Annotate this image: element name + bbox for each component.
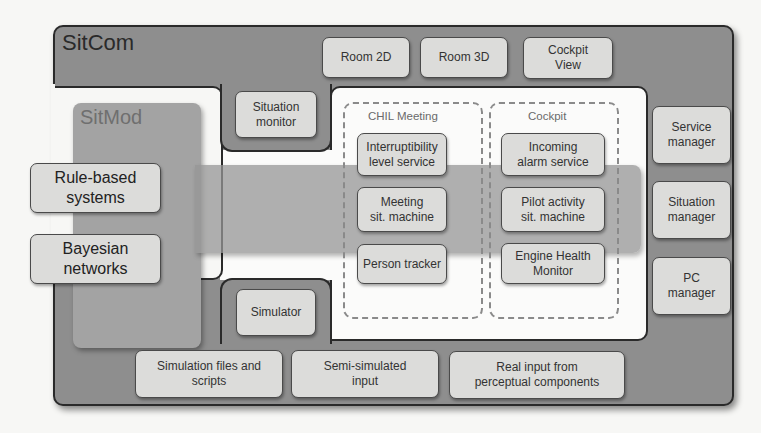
semi-simulated-input-box: Semi-simulated input	[291, 350, 439, 398]
service-manager-box: Service manager	[652, 106, 731, 164]
simulation-files-box: Simulation files and scripts	[135, 350, 283, 398]
sitcom-title: SitCom	[62, 30, 134, 56]
pc-manager-box: PC manager	[652, 257, 731, 315]
chil-meeting-label: CHIL Meeting	[368, 110, 438, 122]
situation-manager-box: Situation manager	[652, 181, 731, 239]
situation-monitor-box: Situation monitor	[235, 91, 317, 138]
real-input-box: Real input from perceptual components	[449, 351, 625, 399]
bayesian-networks-box: Bayesian networks	[30, 234, 161, 284]
cockpit-view-box: Cockpit View	[523, 37, 613, 79]
engine-health-monitor-box: Engine Health Monitor	[501, 243, 605, 284]
sitmod-title: SitMod	[80, 106, 142, 129]
cockpit-label: Cockpit	[528, 110, 566, 122]
room-3d-box: Room 3D	[420, 37, 508, 78]
person-tracker-box: Person tracker	[357, 244, 447, 284]
incoming-alarm-service-box: Incoming alarm service	[501, 133, 605, 176]
room-2d-box: Room 2D	[322, 37, 410, 78]
sitmod-panel	[73, 103, 201, 348]
rule-based-systems-box: Rule-based systems	[30, 163, 161, 213]
meeting-sit-machine-box: Meeting sit. machine	[357, 187, 447, 232]
pilot-activity-sit-machine-box: Pilot activity sit. machine	[501, 187, 605, 232]
interruptibility-service-box: Interruptibility level service	[357, 133, 447, 176]
simulator-box: Simulator	[236, 289, 316, 336]
